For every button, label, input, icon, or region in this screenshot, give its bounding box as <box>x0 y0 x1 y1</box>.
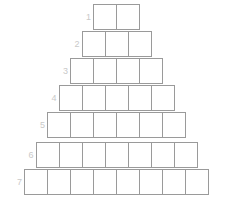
grid-cell[interactable] <box>185 169 209 195</box>
pyramid-row-cells: 2 <box>83 31 152 57</box>
row-label-2: 2 <box>74 40 79 49</box>
grid-cell[interactable] <box>116 169 140 195</box>
pyramid-row: 1 <box>0 4 234 31</box>
pyramid-row: 2 <box>0 31 234 58</box>
grid-cell[interactable] <box>128 142 152 168</box>
pyramid-row-cells: 1 <box>94 4 140 30</box>
grid-cell[interactable] <box>59 142 83 168</box>
grid-cell[interactable] <box>128 31 152 57</box>
row-label-1: 1 <box>86 13 91 22</box>
pyramid-row-cells: 3 <box>71 58 163 84</box>
pyramid-row: 4 <box>0 85 234 112</box>
grid-cell[interactable] <box>151 142 175 168</box>
grid-cell[interactable] <box>82 85 106 111</box>
grid-cell[interactable] <box>93 169 117 195</box>
grid-cell[interactable] <box>116 4 140 30</box>
pyramid-row: 7 <box>0 169 234 196</box>
grid-cell[interactable] <box>47 169 71 195</box>
row-label-3: 3 <box>63 67 68 76</box>
grid-cell[interactable] <box>93 112 117 138</box>
grid-cell[interactable] <box>24 169 48 195</box>
row-label-7: 7 <box>17 178 22 187</box>
pyramid-row-cells: 6 <box>37 142 198 168</box>
pyramid-row: 6 <box>0 142 234 169</box>
grid-cell[interactable] <box>139 169 163 195</box>
pyramid-row-cells: 5 <box>48 112 186 138</box>
grid-cell[interactable] <box>139 58 163 84</box>
grid-cell[interactable] <box>151 85 175 111</box>
grid-cell[interactable] <box>82 142 106 168</box>
grid-cell[interactable] <box>105 85 129 111</box>
grid-cell[interactable] <box>128 85 152 111</box>
grid-cell[interactable] <box>59 85 83 111</box>
grid-cell[interactable] <box>139 112 163 138</box>
grid-cell[interactable] <box>82 31 106 57</box>
pyramid-row: 3 <box>0 58 234 85</box>
grid-cell[interactable] <box>93 58 117 84</box>
pyramid-row: 5 <box>0 112 234 139</box>
grid-cell[interactable] <box>93 4 117 30</box>
grid-cell[interactable] <box>116 112 140 138</box>
grid-cell[interactable] <box>47 112 71 138</box>
row-label-6: 6 <box>28 151 33 160</box>
grid-cell[interactable] <box>70 112 94 138</box>
grid-cell[interactable] <box>105 142 129 168</box>
pyramid-row-cells: 7 <box>25 169 209 195</box>
row-label-5: 5 <box>40 121 45 130</box>
grid-cell[interactable] <box>36 142 60 168</box>
grid-cell[interactable] <box>174 142 198 168</box>
grid-cell[interactable] <box>116 58 140 84</box>
grid-cell[interactable] <box>70 169 94 195</box>
row-label-4: 4 <box>51 94 56 103</box>
grid-cell[interactable] <box>105 31 129 57</box>
grid-cell[interactable] <box>70 58 94 84</box>
pyramid-row-cells: 4 <box>60 85 175 111</box>
grid-cell[interactable] <box>162 112 186 138</box>
pyramid-grid-figure: 1234567 <box>0 0 234 200</box>
grid-cell[interactable] <box>162 169 186 195</box>
